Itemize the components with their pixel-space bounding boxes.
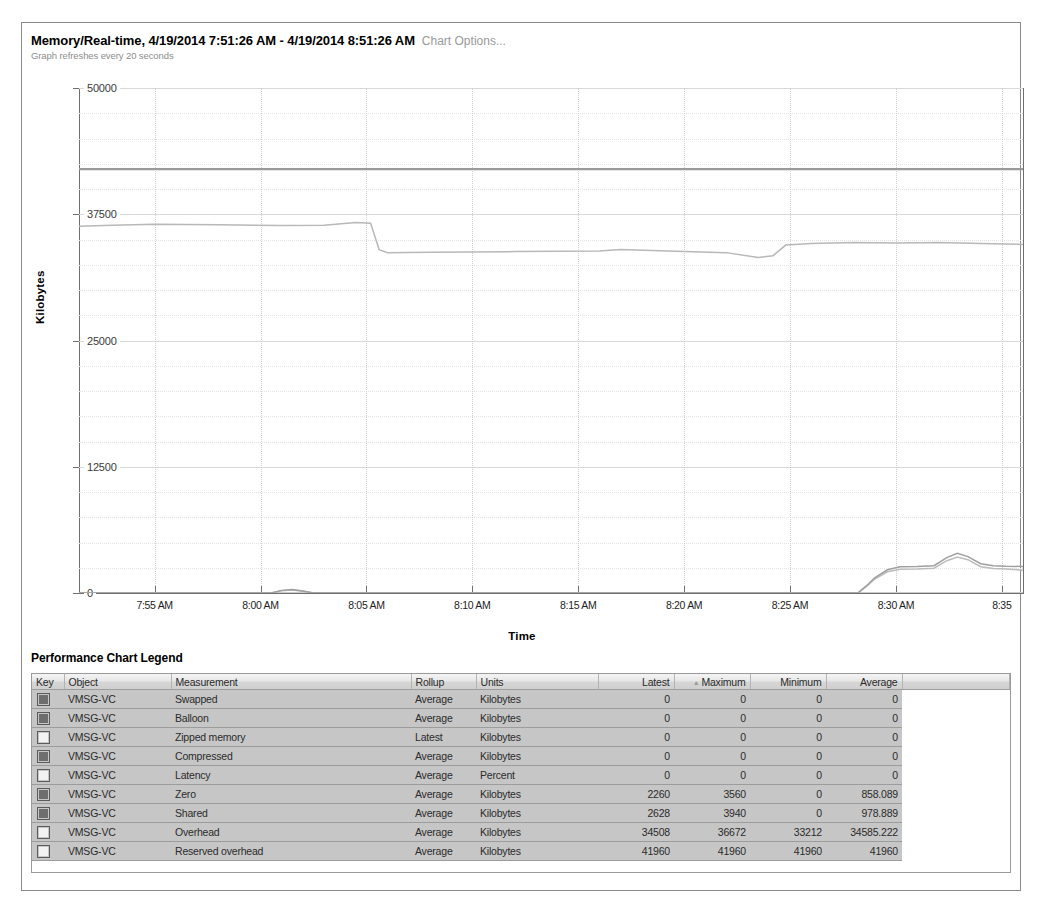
legend-units-cell: Kilobytes (476, 804, 598, 823)
page-title: Memory/Real-time, 4/19/2014 7:51:26 AM -… (31, 33, 415, 48)
legend-key-cell[interactable] (32, 804, 64, 823)
legend-average-cell: 0 (826, 766, 902, 785)
legend-object-cell: VMSG-VC (64, 766, 171, 785)
legend-latest-cell: 0 (598, 728, 674, 747)
legend-column-header-minimum[interactable]: Minimum (750, 674, 826, 690)
table-row[interactable]: VMSG-VCCompressedAverageKilobytes0000 (32, 747, 1010, 766)
chart-options-link[interactable]: Chart Options... (422, 34, 506, 48)
table-row[interactable]: VMSG-VCBalloonAverageKilobytes0000 (32, 709, 1010, 728)
legend-header-row: KeyObjectMeasurementRollupUnitsLatest▲Ma… (32, 674, 1010, 690)
legend-key-cell[interactable] (32, 690, 64, 709)
x-axis-line (79, 593, 1024, 594)
legend-rollup-cell: Average (411, 823, 476, 842)
legend-column-header-maximum[interactable]: ▲Maximum (674, 674, 750, 690)
table-row[interactable]: VMSG-VCLatencyAveragePercent0000 (32, 766, 1010, 785)
legend-maximum-cell: 0 (674, 747, 750, 766)
legend-rollup-cell: Average (411, 709, 476, 728)
legend-column-header-object[interactable]: Object (64, 674, 171, 690)
table-row[interactable]: VMSG-VCZipped memoryLatestKilobytes0000 (32, 728, 1010, 747)
table-row[interactable]: VMSG-VCZeroAverageKilobytes226035600858.… (32, 785, 1010, 804)
x-tick-label: 8:25 AM (772, 599, 808, 611)
series-color-swatch[interactable] (37, 693, 50, 706)
chart-header: Memory/Real-time, 4/19/2014 7:51:26 AM -… (31, 31, 506, 61)
series-line (79, 223, 1023, 258)
table-row[interactable]: VMSG-VCReserved overheadAverageKilobytes… (32, 842, 1010, 861)
legend-object-cell: VMSG-VC (64, 823, 171, 842)
legend-column-header-measurement[interactable]: Measurement (171, 674, 411, 690)
chart-title-row: Memory/Real-time, 4/19/2014 7:51:26 AM -… (31, 31, 506, 49)
legend-object-cell: VMSG-VC (64, 709, 171, 728)
legend-units-cell: Percent (476, 766, 598, 785)
legend-row-filler (902, 690, 1010, 709)
legend-maximum-cell: 36672 (674, 823, 750, 842)
legend-rollup-cell: Average (411, 766, 476, 785)
legend-latest-cell: 0 (598, 747, 674, 766)
legend-measurement-cell: Zipped memory (171, 728, 411, 747)
x-tick-label: 8:05 AM (348, 599, 384, 611)
legend-object-cell: VMSG-VC (64, 785, 171, 804)
x-tick-label: 8:35 (992, 599, 1011, 611)
y-axis-label: Kilobytes (34, 270, 46, 324)
legend-column-header-rollup[interactable]: Rollup (411, 674, 476, 690)
series-color-swatch[interactable] (37, 712, 50, 725)
legend-minimum-cell: 41960 (750, 842, 826, 861)
chart-series-svg (79, 88, 1023, 593)
legend-title: Performance Chart Legend (31, 651, 183, 665)
legend-key-cell[interactable] (32, 709, 64, 728)
legend-average-cell: 978.889 (826, 804, 902, 823)
sort-ascending-icon: ▲ (693, 679, 700, 686)
legend-average-cell: 0 (826, 728, 902, 747)
series-color-swatch[interactable] (37, 731, 50, 744)
x-axis-label: Time (22, 630, 1022, 642)
legend-maximum-cell: 41960 (674, 842, 750, 861)
legend-minimum-cell: 0 (750, 747, 826, 766)
series-color-swatch[interactable] (37, 845, 50, 858)
table-row[interactable]: VMSG-VCSharedAverageKilobytes26283940097… (32, 804, 1010, 823)
plot-right-border (1023, 88, 1024, 594)
legend-maximum-cell: 3560 (674, 785, 750, 804)
table-row[interactable]: VMSG-VCOverheadAverageKilobytes345083667… (32, 823, 1010, 842)
legend-units-cell: Kilobytes (476, 709, 598, 728)
legend-rollup-cell: Average (411, 842, 476, 861)
legend-measurement-cell: Compressed (171, 747, 411, 766)
legend-units-cell: Kilobytes (476, 690, 598, 709)
legend-maximum-cell: 0 (674, 709, 750, 728)
legend-table: KeyObjectMeasurementRollupUnitsLatest▲Ma… (32, 674, 1010, 861)
legend-column-header-average[interactable]: Average (826, 674, 902, 690)
legend-rollup-cell: Average (411, 690, 476, 709)
chart-area: Kilobytes 012500250003750050000 7:55 AM8… (22, 78, 1022, 663)
legend-key-cell[interactable] (32, 785, 64, 804)
table-row[interactable]: VMSG-VCSwappedAverageKilobytes0000 (32, 690, 1010, 709)
legend-body: VMSG-VCSwappedAverageKilobytes0000VMSG-V… (32, 690, 1010, 861)
legend-column-header-key[interactable]: Key (32, 674, 64, 690)
performance-chart-legend: KeyObjectMeasurementRollupUnitsLatest▲Ma… (31, 673, 1011, 873)
series-color-swatch[interactable] (37, 788, 50, 801)
legend-row-filler (902, 747, 1010, 766)
legend-measurement-cell: Reserved overhead (171, 842, 411, 861)
legend-maximum-cell: 0 (674, 728, 750, 747)
refresh-note: Graph refreshes every 20 seconds (31, 50, 506, 61)
x-tick-label: 8:30 AM (878, 599, 914, 611)
x-tick-label: 8:10 AM (454, 599, 490, 611)
series-color-swatch[interactable] (37, 750, 50, 763)
legend-average-cell: 34585.222 (826, 823, 902, 842)
legend-column-header-units[interactable]: Units (476, 674, 598, 690)
legend-average-cell: 0 (826, 690, 902, 709)
series-color-swatch[interactable] (37, 826, 50, 839)
legend-minimum-cell: 33212 (750, 823, 826, 842)
legend-key-cell[interactable] (32, 766, 64, 785)
legend-key-cell[interactable] (32, 728, 64, 747)
x-tick-label: 8:00 AM (242, 599, 278, 611)
legend-key-cell[interactable] (32, 747, 64, 766)
legend-rollup-cell: Average (411, 747, 476, 766)
series-color-swatch[interactable] (37, 769, 50, 782)
series-line (79, 553, 1023, 593)
legend-column-header-latest[interactable]: Latest (598, 674, 674, 690)
legend-units-cell: Kilobytes (476, 747, 598, 766)
legend-latest-cell: 34508 (598, 823, 674, 842)
legend-key-cell[interactable] (32, 823, 64, 842)
legend-latest-cell: 2260 (598, 785, 674, 804)
legend-rollup-cell: Average (411, 804, 476, 823)
legend-key-cell[interactable] (32, 842, 64, 861)
series-color-swatch[interactable] (37, 807, 50, 820)
